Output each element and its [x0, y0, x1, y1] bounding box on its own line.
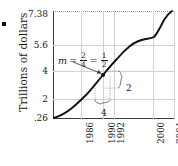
- brace-rise-label: 2: [126, 83, 132, 93]
- slope-annotation: m = 2 4 = 1 2: [58, 52, 109, 68]
- slope-fraction-one-half: 1 2: [101, 52, 108, 68]
- brace-rise: [118, 71, 122, 88]
- slope-fraction-rise-over-run: 2 4: [80, 52, 87, 68]
- fraction-numerator-1: 1: [101, 52, 108, 60]
- slope-equals-2: =: [90, 55, 98, 66]
- fraction-denominator-2: 2: [101, 60, 108, 69]
- slope-point-marker: [101, 73, 105, 77]
- fraction-numerator-2: 2: [80, 52, 87, 60]
- brace-run-label: 4: [101, 108, 107, 118]
- fraction-denominator-4: 4: [80, 60, 87, 69]
- brace-run: [95, 100, 110, 104]
- slope-equals-1: =: [69, 55, 77, 66]
- chart-graphics: [0, 0, 178, 166]
- slope-variable: m: [58, 55, 67, 66]
